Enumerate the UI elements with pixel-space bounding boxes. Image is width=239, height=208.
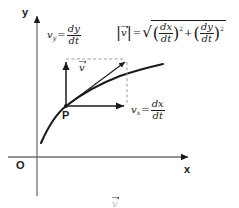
vy-equals: =: [56, 29, 66, 40]
term2-fraction: dydt: [200, 22, 214, 45]
y-axis-label: y: [22, 7, 28, 18]
magnitude-plus: +: [183, 27, 193, 38]
vx-equals: =: [140, 104, 150, 115]
point-p-marker: [64, 104, 68, 108]
velocity-magnitude-formula: |v|=√(dxdt)2+(dydt)2: [116, 20, 226, 45]
vx-denominator: dt: [151, 111, 165, 122]
magnitude-equals: =: [132, 27, 142, 38]
x-axis-label: x: [184, 164, 190, 175]
velocity-vector-label: v: [79, 62, 85, 73]
v-with-arrow-accent: v: [79, 62, 85, 73]
clipped-bottom-fragment: v: [112, 198, 118, 208]
vy-equation-label: vy=dydt: [47, 24, 81, 47]
radicand-group: (dxdt)2+(dydt)2: [151, 20, 226, 45]
vy-fraction: dydt: [67, 24, 81, 47]
vy-denominator: dt: [67, 36, 81, 47]
magnitude-v-symbol: v: [121, 27, 127, 38]
velocity-vector-diagram: y x O P v vy=dydt vx=dxdt |v|=√(dxdt)2+(…: [0, 0, 239, 208]
term2-denominator: dt: [200, 34, 214, 45]
term2-exponent: 2: [220, 25, 224, 32]
vx-equation-label: vx=dxdt: [131, 99, 165, 122]
velocity-vector-arrow: [66, 62, 125, 106]
clipped-v-symbol: v: [112, 198, 118, 208]
vx-fraction: dxdt: [151, 99, 165, 122]
point-p-label: P: [62, 110, 69, 121]
origin-label: O: [16, 160, 25, 171]
term1-fraction: dxdt: [159, 22, 173, 45]
term1-denominator: dt: [159, 34, 173, 45]
